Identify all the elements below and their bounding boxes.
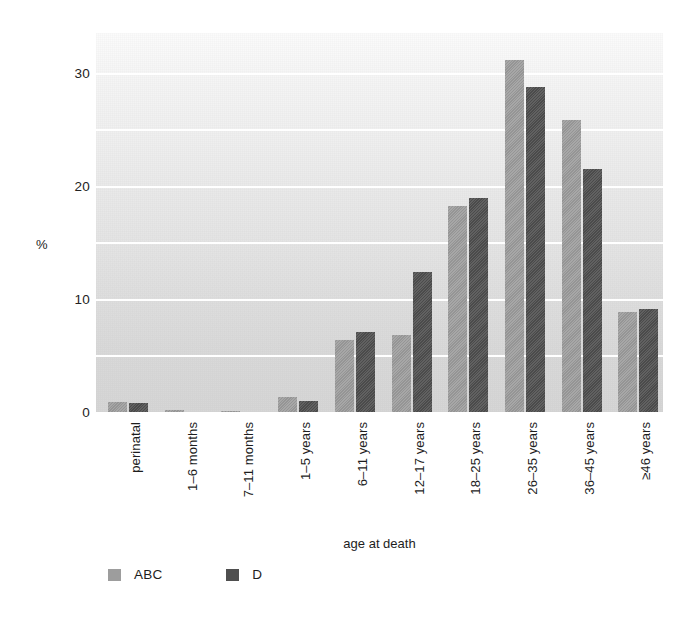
bar-group bbox=[606, 33, 663, 412]
x-tick-cell: 1–5 years bbox=[266, 412, 323, 542]
legend-label: D bbox=[252, 567, 262, 582]
x-tick-cell: 12–17 years bbox=[380, 412, 437, 542]
bar-group bbox=[96, 33, 153, 412]
x-tick-label: 36–45 years bbox=[582, 349, 597, 422]
x-tick-label-text: 1–6 months bbox=[185, 422, 200, 491]
bar-group bbox=[209, 33, 266, 412]
bar-group bbox=[436, 33, 493, 412]
y-tick-label: 10 bbox=[46, 291, 90, 306]
bar-abc[interactable] bbox=[562, 120, 581, 412]
x-tick-label: 1–6 months bbox=[185, 353, 200, 422]
x-tick-cell: 18–25 years bbox=[436, 412, 493, 542]
chart-legend: ABCD bbox=[108, 567, 262, 582]
legend-label: ABC bbox=[134, 567, 162, 582]
bar-chart-figure: % 0102030 perinatal1–6 months7–11 months… bbox=[0, 0, 694, 620]
y-tick-label: 20 bbox=[46, 178, 90, 193]
bar-abc[interactable] bbox=[505, 60, 524, 412]
y-axis-tick-labels: 0102030 bbox=[46, 0, 90, 620]
x-tick-label-text: 26–35 years bbox=[525, 422, 540, 495]
x-tick-cell: 36–45 years bbox=[550, 412, 607, 542]
x-tick-label: 18–25 years bbox=[468, 349, 483, 422]
x-tick-label: 26–35 years bbox=[525, 349, 540, 422]
x-tick-label-text: 12–17 years bbox=[412, 422, 427, 495]
x-tick-label: 7–11 months bbox=[241, 347, 256, 422]
bar-abc[interactable] bbox=[392, 335, 411, 412]
x-tick-label: 12–17 years bbox=[412, 349, 427, 422]
x-tick-label-text: 18–25 years bbox=[468, 422, 483, 495]
bar-groups bbox=[96, 33, 663, 412]
x-tick-label-text: perinatal bbox=[128, 422, 143, 473]
bar-abc[interactable] bbox=[618, 312, 637, 412]
x-tick-cell: 6–11 years bbox=[323, 412, 380, 542]
y-tick-label: 30 bbox=[46, 65, 90, 80]
y-tick-label: 0 bbox=[46, 405, 90, 420]
x-tick-label: 6–11 years bbox=[355, 358, 370, 422]
bar-group bbox=[550, 33, 607, 412]
bar-group bbox=[380, 33, 437, 412]
legend-swatch-icon bbox=[226, 569, 239, 581]
x-tick-label: ≥46 years bbox=[638, 364, 653, 422]
legend-item[interactable]: ABC bbox=[108, 567, 162, 582]
x-tick-label-text: 1–5 years bbox=[298, 422, 313, 480]
x-axis-tick-labels: perinatal1–6 months7–11 months1–5 years6… bbox=[96, 412, 663, 542]
bar-abc[interactable] bbox=[278, 397, 297, 412]
bar-abc[interactable] bbox=[108, 402, 127, 412]
plot-area bbox=[96, 33, 663, 412]
legend-swatch-icon bbox=[108, 569, 121, 581]
x-tick-cell: 1–6 months bbox=[153, 412, 210, 542]
x-tick-label-text: 7–11 months bbox=[241, 422, 256, 497]
bar-abc[interactable] bbox=[335, 340, 354, 412]
legend-item[interactable]: D bbox=[226, 567, 262, 582]
x-tick-label: perinatal bbox=[128, 371, 143, 422]
x-tick-label-text: 36–45 years bbox=[582, 422, 597, 495]
bar-group bbox=[323, 33, 380, 412]
bar-group bbox=[153, 33, 210, 412]
x-tick-cell: ≥46 years bbox=[606, 412, 663, 542]
x-tick-cell: perinatal bbox=[96, 412, 153, 542]
x-tick-cell: 7–11 months bbox=[209, 412, 266, 542]
x-tick-label-text: 6–11 years bbox=[355, 422, 370, 486]
x-tick-label: 1–5 years bbox=[298, 364, 313, 422]
bar-abc[interactable] bbox=[448, 206, 467, 412]
x-tick-label-text: ≥46 years bbox=[638, 422, 653, 480]
bar-group bbox=[266, 33, 323, 412]
x-tick-cell: 26–35 years bbox=[493, 412, 550, 542]
bar-group bbox=[493, 33, 550, 412]
